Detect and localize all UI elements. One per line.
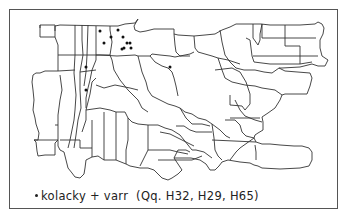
data-point-dot (169, 66, 172, 69)
data-points (85, 29, 172, 92)
data-point-dot (129, 42, 132, 45)
legend-dot-icon (35, 194, 38, 197)
legend-label: kolacky + varr (41, 189, 128, 203)
legend-refs: (Qq. H32, H29, H65) (136, 189, 259, 203)
data-point-dot (126, 42, 129, 45)
data-point-dot (85, 66, 88, 69)
data-point-dot (99, 30, 102, 33)
data-point-dot (110, 36, 113, 39)
data-point-dot (85, 89, 88, 92)
data-point-dot (103, 42, 106, 45)
data-point-dot (117, 29, 120, 32)
map-outline (40, 25, 55, 37)
region-boundaries (32, 19, 328, 180)
data-point-dot (130, 47, 133, 50)
data-point-dot (121, 48, 124, 51)
data-point-dot (122, 36, 125, 39)
map-legend: kolacky + varr (Qq. H32, H29, H65) (35, 189, 259, 203)
